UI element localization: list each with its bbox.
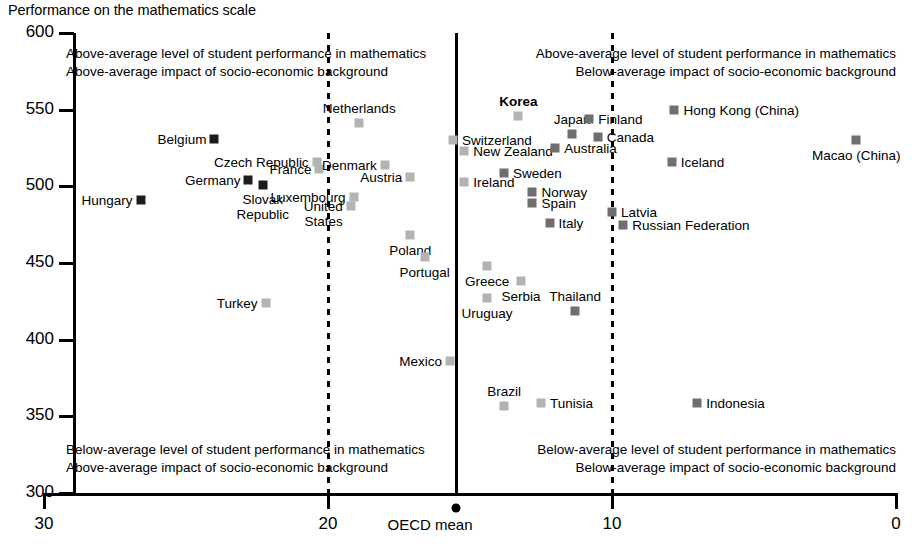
x-tick-10	[611, 493, 614, 509]
data-label-mexico-line-1: Mexico	[399, 354, 442, 369]
data-point-brazil[interactable]	[500, 401, 509, 410]
data-point-thailand[interactable]	[571, 306, 580, 315]
quadrant-top-right-line-1: Above-average level of student performan…	[536, 45, 896, 63]
data-label-macao-china-line-1: Macao (China)	[812, 148, 901, 163]
data-label-france-line-1: France	[269, 162, 311, 177]
data-label-greece-line-1: Greece	[465, 274, 509, 289]
data-point-russian-federation[interactable]	[619, 220, 628, 229]
data-point-australia[interactable]	[551, 144, 560, 153]
data-label-russian-federation: Russian Federation	[632, 217, 749, 232]
data-point-mexico[interactable]	[446, 357, 455, 366]
data-label-tunisia: Tunisia	[550, 395, 593, 410]
data-point-japan[interactable]	[568, 130, 577, 139]
data-label-canada: Canada	[607, 130, 654, 145]
data-point-switzerland[interactable]	[448, 136, 457, 145]
data-label-hong-kong-china-line-1: Hong Kong (China)	[683, 102, 799, 117]
data-label-slovak-republic-line-2: Republic	[236, 207, 289, 222]
quadrant-top-right: Above-average level of student performan…	[536, 45, 896, 81]
data-label-iceland: Iceland	[681, 154, 725, 169]
data-label-turkey-line-1: Turkey	[217, 295, 258, 310]
data-label-canada-line-1: Canada	[607, 130, 654, 145]
data-label-austria-line-1: Austria	[360, 170, 402, 185]
data-label-netherlands-line-1: Netherlands	[323, 101, 396, 116]
x-tick-label-10: 10	[603, 514, 622, 534]
x-axis-title: OECD mean	[387, 516, 472, 533]
data-point-norway[interactable]	[528, 188, 537, 197]
data-point-latvia[interactable]	[608, 208, 617, 217]
data-label-korea: Korea	[499, 93, 537, 108]
y-tick-label-500: 500	[8, 175, 54, 195]
data-label-finland-line-1: Finland	[598, 111, 642, 126]
y-tick-600	[59, 32, 74, 35]
data-point-macao-china[interactable]	[852, 136, 861, 145]
data-point-finland[interactable]	[585, 114, 594, 123]
data-point-ireland[interactable]	[460, 177, 469, 186]
data-label-serbia-line-1: Serbia	[502, 289, 541, 304]
data-label-uruguay: Uruguay	[462, 306, 513, 321]
data-label-greece: Greece	[465, 274, 509, 289]
data-point-germany[interactable]	[244, 176, 253, 185]
data-point-greece[interactable]	[483, 262, 492, 271]
data-label-sweden: Sweden	[513, 165, 562, 180]
data-label-korea-line-1: Korea	[499, 93, 537, 108]
data-point-united-states[interactable]	[346, 202, 355, 211]
data-label-new-zealand-line-1: New Zealand	[473, 144, 553, 159]
quadrant-top-left-line-2: Above-average impact of socio-economic b…	[66, 63, 426, 81]
chart-title: Performance on the mathematics scale	[8, 2, 256, 18]
data-point-iceland[interactable]	[667, 157, 676, 166]
data-point-belgium[interactable]	[210, 134, 219, 143]
quadrant-bottom-left-line-2: Above-average impact of socio-economic b…	[66, 459, 425, 477]
data-label-new-zealand: New Zealand	[473, 144, 553, 159]
x-tick-30	[43, 493, 46, 509]
data-label-hungary-line-1: Hungary	[82, 193, 133, 208]
data-point-netherlands[interactable]	[355, 119, 364, 128]
data-point-luxembourg[interactable]	[349, 193, 358, 202]
data-label-uruguay-line-1: Uruguay	[462, 306, 513, 321]
data-point-tunisia[interactable]	[537, 398, 546, 407]
data-point-austria[interactable]	[406, 173, 415, 182]
data-label-netherlands: Netherlands	[323, 101, 396, 116]
data-point-portugal[interactable]	[420, 252, 429, 261]
data-label-finland: Finland	[598, 111, 642, 126]
y-tick-350	[59, 415, 74, 418]
data-label-portugal-line-1: Portugal	[399, 264, 449, 279]
x-tick-label-0: 0	[891, 514, 900, 534]
data-point-slovak-republic[interactable]	[258, 180, 267, 189]
quadrant-bottom-left: Below-average level of student performan…	[66, 441, 425, 477]
data-label-belgium-line-1: Belgium	[158, 131, 207, 146]
data-point-new-zealand[interactable]	[460, 147, 469, 156]
data-label-mexico: Mexico	[399, 354, 442, 369]
oecd-mean-dot	[451, 504, 460, 513]
data-label-macao-china: Macao (China)	[812, 148, 901, 163]
scatter-chart-figure: Performance on the mathematics scale 300…	[0, 0, 912, 553]
x-tick-label-20: 20	[319, 514, 338, 534]
data-point-italy[interactable]	[545, 219, 554, 228]
data-label-thailand-line-1: Thailand	[549, 288, 601, 303]
data-point-canada[interactable]	[593, 133, 602, 142]
data-label-portugal: Portugal	[399, 264, 449, 279]
data-label-germany-line-1: Germany	[185, 173, 241, 188]
data-point-hong-kong-china[interactable]	[670, 105, 679, 114]
data-point-uruguay[interactable]	[483, 294, 492, 303]
y-tick-500	[59, 185, 74, 188]
data-point-korea[interactable]	[514, 111, 523, 120]
data-point-sweden[interactable]	[500, 168, 509, 177]
data-point-hungary[interactable]	[136, 196, 145, 205]
quadrant-bottom-right-line-2: Below-average impact of socio-economic b…	[537, 459, 896, 477]
data-point-denmark[interactable]	[380, 160, 389, 169]
data-label-sweden-line-1: Sweden	[513, 165, 562, 180]
data-label-belgium: Belgium	[158, 131, 207, 146]
data-label-tunisia-line-1: Tunisia	[550, 395, 593, 410]
data-point-turkey[interactable]	[261, 298, 270, 307]
y-tick-450	[59, 262, 74, 265]
data-point-spain[interactable]	[528, 199, 537, 208]
data-label-indonesia-line-1: Indonesia	[706, 395, 765, 410]
data-point-serbia[interactable]	[517, 277, 526, 286]
data-label-france: France	[269, 162, 311, 177]
data-label-italy: Italy	[559, 216, 584, 231]
data-point-indonesia[interactable]	[693, 398, 702, 407]
data-label-united-states-line-2: States	[304, 214, 343, 229]
data-label-brazil-line-1: Brazil	[487, 383, 521, 398]
data-point-poland[interactable]	[406, 231, 415, 240]
quadrant-bottom-right-line-1: Below-average level of student performan…	[537, 441, 896, 459]
